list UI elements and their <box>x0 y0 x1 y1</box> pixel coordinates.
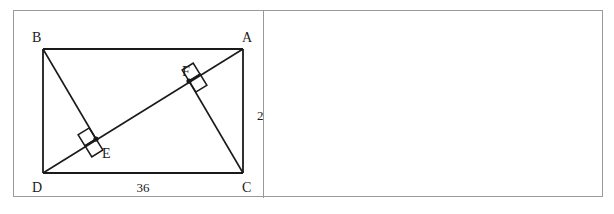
vertex-label-D: D <box>32 180 42 195</box>
point-marker-F <box>186 78 191 83</box>
vertex-label-A: A <box>242 30 253 45</box>
empty-panel <box>264 11 603 198</box>
diagonal-DA <box>43 49 243 173</box>
measure-label-36: 36 <box>137 180 151 195</box>
content-frame: B A C D E F 24 36 <box>13 10 603 197</box>
right-angle-at-E <box>78 128 103 157</box>
geometry-figure: B A C D E F 24 36 <box>14 11 263 198</box>
point-label-E: E <box>102 146 111 161</box>
point-marker-E <box>93 136 98 141</box>
vertex-label-B: B <box>32 30 41 45</box>
perpendicular-BE <box>43 49 96 139</box>
screenshot-root: B A C D E F 24 36 <box>0 0 614 214</box>
vertex-label-C: C <box>242 180 251 195</box>
point-label-F: F <box>182 64 190 79</box>
perpendicular-CF <box>189 81 243 173</box>
figure-panel: B A C D E F 24 36 <box>14 11 263 198</box>
